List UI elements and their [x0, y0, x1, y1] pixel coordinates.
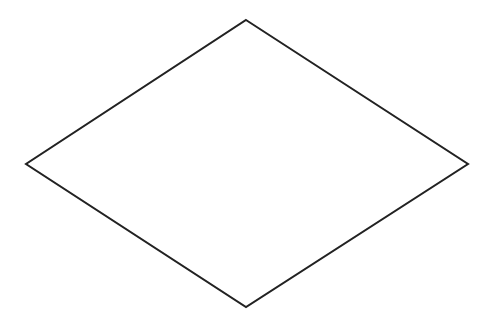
rhombus-shape — [26, 20, 468, 307]
diagram-canvas — [0, 0, 493, 327]
